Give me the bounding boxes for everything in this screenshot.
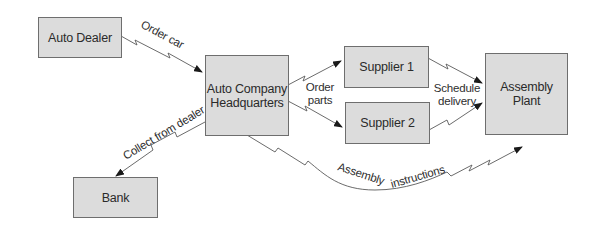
- order-car-arrow: [121, 36, 202, 72]
- network-diagram: Order car Collect from dealer Assembly i…: [0, 0, 598, 235]
- schedule-delivery-supplier1-arrow: [428, 58, 482, 83]
- auto-dealer-label: Auto Dealer: [48, 31, 112, 45]
- supplier2-node: Supplier 2: [345, 102, 430, 144]
- bank-node: Bank: [73, 177, 158, 218]
- auto-dealer-node: Auto Dealer: [38, 17, 122, 58]
- schedule-delivery-label: Schedule delivery: [427, 82, 487, 108]
- assembly-plant-label-line1: Assembly: [500, 80, 553, 94]
- supplier1-label: Supplier 1: [359, 60, 413, 74]
- headquarters-node: Auto Company Headquarters: [205, 55, 289, 136]
- headquarters-label-line1: Auto Company: [207, 82, 287, 96]
- schedule-delivery-label-line2: delivery: [427, 95, 487, 108]
- collect-from-dealer-label: Collect from dealer: [121, 103, 207, 161]
- order-parts-label-line1: Order: [303, 81, 337, 94]
- supplier2-label: Supplier 2: [360, 116, 414, 130]
- assembly-label: Assembly: [336, 160, 386, 186]
- bank-label: Bank: [102, 191, 130, 205]
- order-parts-label: Order parts: [303, 81, 337, 107]
- supplier1-node: Supplier 1: [344, 46, 429, 88]
- assembly-plant-label-line2: Plant: [513, 94, 541, 108]
- headquarters-label-line2: Headquarters: [210, 96, 283, 110]
- instructions-label: instructions: [389, 163, 446, 190]
- assembly-plant-node: Assembly Plant: [485, 53, 568, 135]
- schedule-delivery-label-line1: Schedule: [427, 82, 487, 95]
- order-parts-label-line2: parts: [303, 94, 337, 107]
